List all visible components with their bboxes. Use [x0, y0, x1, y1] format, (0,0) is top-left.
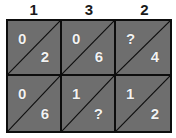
grid-cell-r1c3[interactable]: ? 4 [116, 21, 170, 76]
grid-cell-r1c1[interactable]: 0 2 [8, 21, 62, 76]
column-header-row: 1 3 2 [6, 0, 172, 19]
cell-lower-value-r2c3: 2 [151, 106, 159, 121]
cell-upper-value-r1c1: 0 [18, 31, 26, 46]
cell-lower-value-r1c1: 2 [41, 49, 49, 64]
cell-lower-value-r1c2: 6 [95, 49, 103, 64]
diagonal-line-icon [62, 76, 114, 131]
diagonal-line-icon [8, 76, 60, 131]
puzzle-figure: 1 3 2 0 2 0 6 ? 4 [0, 0, 176, 138]
column-header-1: 1 [6, 0, 61, 19]
cell-lower-value-r1c3: 4 [151, 49, 159, 64]
cell-upper-value-r1c2: 0 [72, 31, 80, 46]
cell-lower-value-r2c1: 6 [41, 106, 49, 121]
column-header-3: 2 [117, 0, 172, 19]
cell-lower-value-r2c2: ? [94, 106, 103, 121]
cell-upper-value-r2c2: 1 [72, 86, 80, 101]
cell-upper-value-r2c3: 1 [126, 86, 134, 101]
diagonal-line-icon [62, 21, 114, 74]
grid-cell-r1c2[interactable]: 0 6 [62, 21, 116, 76]
diagonal-line-icon [8, 21, 60, 74]
puzzle-grid: 0 2 0 6 ? 4 0 6 [6, 19, 172, 133]
diagonal-line-icon [116, 76, 170, 131]
cell-upper-value-r2c1: 0 [18, 86, 26, 101]
column-header-2: 3 [61, 0, 116, 19]
diagonal-line-icon [116, 21, 170, 74]
grid-cell-r2c1[interactable]: 0 6 [8, 76, 62, 131]
grid-cell-r2c3[interactable]: 1 2 [116, 76, 170, 131]
cell-upper-value-r1c3: ? [126, 31, 135, 46]
grid-cell-r2c2[interactable]: 1 ? [62, 76, 116, 131]
